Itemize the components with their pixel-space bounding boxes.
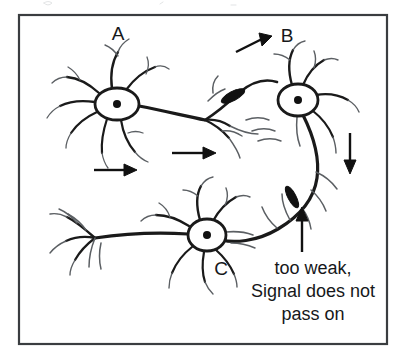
neuron-b-label: B xyxy=(281,25,294,46)
neuron-diagram-figure: A B C too weak, Signal does not pass on xyxy=(0,0,406,361)
neuron-c-nucleus xyxy=(203,231,211,239)
weak-signal-note-line-3: pass on xyxy=(281,304,344,324)
diagram-canvas: A B C too weak, Signal does not pass on xyxy=(0,0,406,361)
weak-signal-note-line-2: Signal does not xyxy=(251,281,375,301)
neuron-a-label: A xyxy=(112,23,125,44)
neuron-c-label: C xyxy=(214,258,228,279)
weak-signal-note-line-1: too weak, xyxy=(274,258,351,278)
neuron-b-nucleus xyxy=(294,96,302,104)
neuron-a-nucleus xyxy=(113,100,121,108)
